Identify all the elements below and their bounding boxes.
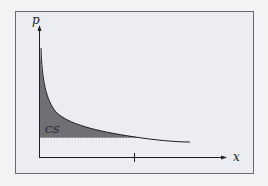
y-axis-label: p <box>32 13 40 27</box>
x-axis-label: x <box>233 150 240 164</box>
demand-curve-chart: p x CS <box>0 0 268 186</box>
cs-label: CS <box>45 124 60 135</box>
x-axis-arrow-icon <box>221 156 227 160</box>
